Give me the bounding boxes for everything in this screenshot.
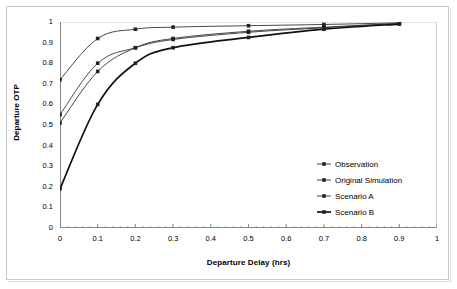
legend-item[interactable]: Scenario A [316, 188, 436, 204]
x-tick-label: 0.5 [236, 234, 262, 243]
series-scenario-a [60, 22, 401, 125]
legend-marker-icon [316, 191, 332, 201]
y-tick-label: 0.8 [31, 58, 53, 67]
y-tick-label: 0.9 [31, 38, 53, 47]
y-tick-label: 0.1 [31, 202, 53, 211]
x-tick-label: 0.9 [386, 234, 412, 243]
legend-item[interactable]: Observation [316, 156, 436, 172]
y-tick-label: 0.7 [31, 79, 53, 88]
x-axis-title: Departure Delay (hrs) [60, 258, 437, 267]
y-tick-label: 0.5 [31, 120, 53, 129]
x-tick-label: 0.4 [198, 234, 224, 243]
legend-item[interactable]: Scenario B [316, 204, 436, 220]
x-tick-label: 0.6 [273, 234, 299, 243]
x-tick-label: 1 [424, 234, 450, 243]
y-tick-label: 0.2 [31, 182, 53, 191]
x-tick-label: 0 [47, 234, 73, 243]
legend-marker-icon [316, 159, 332, 169]
series-original-simulation [60, 22, 401, 117]
series-observation [60, 22, 401, 81]
x-tick-label: 0.3 [160, 234, 186, 243]
y-tick-label: 0 [31, 223, 53, 232]
x-tick-label: 0.2 [122, 234, 148, 243]
legend-label: Scenario B [335, 208, 374, 217]
y-axis-title: Departure OTP [12, 53, 21, 173]
legend-label: Original Simulation [335, 176, 402, 185]
y-tick-label: 1 [31, 17, 53, 26]
legend-marker-icon [316, 175, 332, 185]
x-tick-label: 0.7 [311, 234, 337, 243]
chart-figure: 00.10.20.30.40.50.60.70.80.91 00.10.20.3… [0, 0, 457, 289]
x-tick-label: 0.1 [85, 234, 111, 243]
y-tick-label: 0.4 [31, 141, 53, 150]
legend-label: Observation [335, 160, 378, 169]
legend-item[interactable]: Original Simulation [316, 172, 436, 188]
chart-legend: ObservationOriginal SimulationScenario A… [316, 156, 436, 220]
x-tick-label: 0.8 [349, 234, 375, 243]
y-tick-label: 0.6 [31, 99, 53, 108]
y-tick-label: 0.3 [31, 161, 53, 170]
legend-marker-icon [316, 207, 332, 217]
legend-label: Scenario A [335, 192, 374, 201]
